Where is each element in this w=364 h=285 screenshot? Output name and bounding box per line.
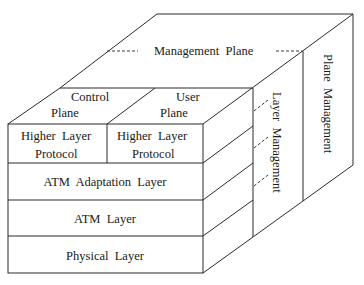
higher-layer-control-2: Protocol [35,147,78,161]
management-plane-label: Management Plane [154,44,254,58]
user-plane-label-2: Plane [160,106,188,120]
control-plane-label-2: Plane [51,106,79,120]
higher-layer-user-2: Protocol [132,147,175,161]
plane-management-label: Plane Management [321,54,335,154]
layer-management-label: Layer Management [270,92,284,193]
planes-top-face [8,88,253,124]
protocol-cube-diagram: Management Plane Control Plane User Plan… [0,0,364,285]
layer-management-face [253,88,268,237]
higher-layer-control-1: Higher Layer [21,129,92,143]
aal-label: ATM Adaptation Layer [44,175,168,189]
higher-layer-user-1: Higher Layer [117,129,188,143]
atm-layer-label: ATM Layer [74,212,137,226]
user-plane-label-1: User [176,90,200,104]
side-face-lines [203,126,253,236]
control-plane-label-1: Control [71,90,110,104]
physical-layer-label: Physical Layer [66,249,145,263]
